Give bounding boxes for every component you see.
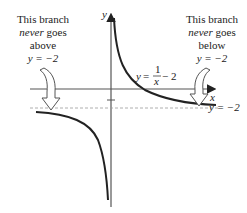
svg-text:y: y xyxy=(135,70,141,82)
svg-text:1: 1 xyxy=(155,63,161,75)
graph-diagram: y x y = 1 x − 2 y = −2 This branch never… xyxy=(0,0,247,213)
asymptote-label: y = −2 xyxy=(208,101,240,113)
right-arrow-icon xyxy=(190,68,210,106)
svg-text:never goes: never goes xyxy=(188,26,235,38)
svg-text:y = −2: y = −2 xyxy=(196,52,228,64)
svg-text:− 2: − 2 xyxy=(162,70,176,82)
svg-text:y = −2: y = −2 xyxy=(27,52,59,64)
left-branch-curve xyxy=(36,112,108,200)
svg-text:This branch: This branch xyxy=(17,13,70,25)
svg-text:=: = xyxy=(143,70,149,82)
svg-text:x: x xyxy=(153,75,159,87)
svg-text:below: below xyxy=(199,39,226,51)
left-note: This branch never goes above y = −2 xyxy=(17,13,70,64)
y-axis-label: y xyxy=(101,8,107,20)
svg-text:never goes: never goes xyxy=(19,26,66,38)
right-note: This branch never goes below y = −2 xyxy=(186,13,239,64)
svg-text:This branch: This branch xyxy=(186,13,239,25)
svg-text:above: above xyxy=(30,39,56,51)
equation-label: y = 1 x − 2 xyxy=(135,63,176,87)
